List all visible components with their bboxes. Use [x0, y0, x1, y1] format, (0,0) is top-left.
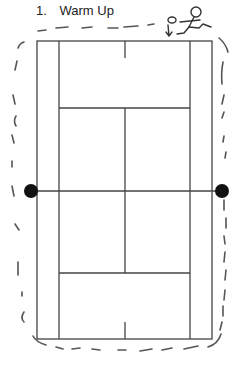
down-arrow-icon [166, 25, 172, 36]
tennis-court [31, 41, 222, 339]
dashed-run-path [12, 24, 228, 351]
tennis-court-diagram [0, 0, 233, 365]
running-stick-figure-icon [166, 7, 211, 36]
ball-icon [168, 17, 176, 23]
left-net-post-icon [24, 184, 38, 198]
right-net-post-icon [215, 184, 229, 198]
